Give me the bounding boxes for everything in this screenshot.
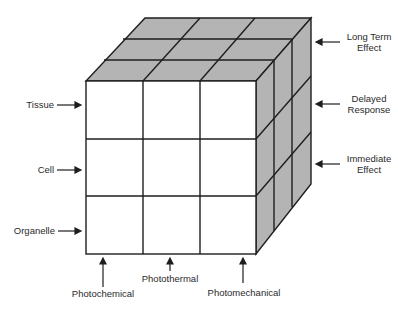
cube-diagram: Tissue Cell Organelle Photochemical Phot…	[0, 0, 398, 309]
layer-label-long-term-line2: Effect	[340, 42, 398, 53]
layer-label-immediate-line2: Effect	[340, 164, 398, 175]
cube-front-face	[86, 81, 256, 254]
row-label-organelle: Organelle	[0, 225, 55, 236]
row-label-cell: Cell	[0, 164, 54, 175]
layer-label-delayed-line2: Response	[340, 104, 398, 115]
layer-label-immediate-line1: Immediate	[340, 153, 398, 164]
column-label-photomechanical: Photomechanical	[196, 287, 292, 298]
layer-label-delayed-response: Delayed Response	[340, 93, 398, 115]
layer-label-immediate-effect: Immediate Effect	[340, 153, 398, 175]
column-label-photothermal: Photothermal	[125, 273, 215, 284]
layer-label-delayed-line1: Delayed	[340, 93, 398, 104]
layer-label-long-term-effect: Long Term Effect	[340, 31, 398, 53]
cube-graphic	[0, 0, 398, 309]
layer-label-long-term-line1: Long Term	[340, 31, 398, 42]
column-label-photochemical: Photochemical	[58, 288, 148, 299]
row-label-tissue: Tissue	[0, 99, 54, 110]
